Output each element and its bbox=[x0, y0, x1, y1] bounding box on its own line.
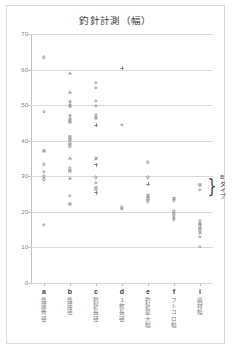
chart-title: 釣針計測（幅） bbox=[7, 13, 224, 27]
x-tick-mark bbox=[70, 283, 71, 286]
y-tick-mark bbox=[28, 70, 31, 71]
gridline bbox=[31, 105, 213, 106]
gridline bbox=[31, 34, 213, 35]
y-tick-label: 40 bbox=[21, 138, 28, 144]
x-category-d: d1枚長径 bbox=[111, 287, 133, 326]
x-axis-category-labels: a角座骨径b角座径c釣針長径d1枚長径e釣針最大幅fフトコロ幅i廃材幅 bbox=[31, 287, 213, 345]
y-tick-label: 70 bbox=[21, 31, 28, 37]
x-tick-mark bbox=[122, 283, 123, 286]
gridline bbox=[31, 70, 213, 71]
x-category-name: 廃材幅 bbox=[197, 297, 203, 316]
x-category-letter: i bbox=[189, 287, 211, 296]
x-category-name: 釣針最大幅 bbox=[145, 297, 151, 328]
y-tick-label: 50 bbox=[21, 102, 28, 108]
x-tick-mark bbox=[44, 283, 45, 286]
annotation-b-type: } Bタイプ bbox=[206, 174, 227, 199]
x-category-name: フトコロ幅 bbox=[171, 297, 177, 328]
gridline bbox=[31, 212, 213, 213]
y-tick-mark bbox=[28, 105, 31, 106]
y-tick-label: 10 bbox=[21, 244, 28, 250]
x-category-a: a角座骨径 bbox=[33, 287, 55, 326]
x-category-letter: e bbox=[137, 287, 159, 296]
y-tick-mark bbox=[28, 283, 31, 284]
y-tick-mark bbox=[28, 176, 31, 177]
y-tick-label: 60 bbox=[21, 67, 28, 73]
x-tick-mark bbox=[200, 283, 201, 286]
y-tick-mark bbox=[28, 212, 31, 213]
x-category-letter: d bbox=[111, 287, 133, 296]
x-category-name: 1枚長径 bbox=[119, 297, 125, 322]
plot-area: 010203040506070 bbox=[31, 34, 213, 283]
x-category-c: c釣針長径 bbox=[85, 287, 107, 326]
y-axis-line bbox=[31, 34, 32, 283]
gridline bbox=[31, 176, 213, 177]
plot-background bbox=[31, 34, 213, 283]
x-category-letter: f bbox=[163, 287, 185, 296]
y-tick-label: 20 bbox=[21, 209, 28, 215]
chart-frame: 釣針計測（幅） 010203040506070 a角座骨径b角座径c釣針長径d1… bbox=[6, 5, 225, 344]
x-category-i: i廃材幅 bbox=[189, 287, 211, 320]
y-tick-label: 30 bbox=[21, 173, 28, 179]
y-tick-mark bbox=[28, 141, 31, 142]
x-category-name: 角座骨径 bbox=[41, 297, 47, 322]
y-tick-mark bbox=[28, 34, 31, 35]
x-category-name: 釣針長径 bbox=[93, 297, 99, 322]
x-tick-mark bbox=[96, 283, 97, 286]
y-tick-mark bbox=[28, 247, 31, 248]
gridline bbox=[31, 247, 213, 248]
brace-icon: } bbox=[208, 177, 217, 196]
x-tick-mark bbox=[148, 283, 149, 286]
annotation-label: Bタイプ bbox=[218, 174, 227, 199]
x-category-letter: b bbox=[59, 287, 81, 296]
x-tick-mark bbox=[174, 283, 175, 286]
gridline bbox=[31, 141, 213, 142]
x-category-e: e釣針最大幅 bbox=[137, 287, 159, 332]
x-category-letter: c bbox=[85, 287, 107, 296]
x-category-letter: a bbox=[33, 287, 55, 296]
x-category-b: b角座径 bbox=[59, 287, 81, 320]
x-category-f: fフトコロ幅 bbox=[163, 287, 185, 332]
x-category-name: 角座径 bbox=[67, 297, 73, 316]
